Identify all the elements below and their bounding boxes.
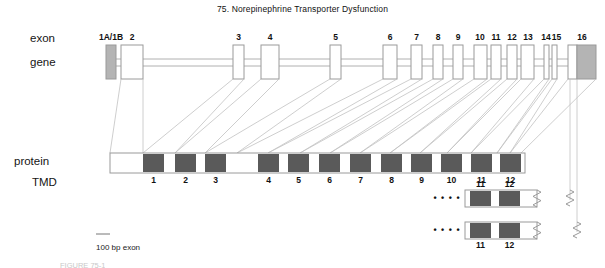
connector-exon-9-left xyxy=(330,79,453,153)
tmd-box-4 xyxy=(258,154,279,172)
figure-caption-cut: FIGURE 75-1 xyxy=(60,261,105,268)
exon-label-7: 7 xyxy=(411,32,422,42)
exon-box-16-coding xyxy=(577,45,596,79)
splice-variant-2-tmd-12 xyxy=(499,223,520,238)
tmd-label-10: 10 xyxy=(441,175,462,185)
tmd-box-6 xyxy=(319,154,340,172)
tmd-label-3: 3 xyxy=(205,175,226,185)
splice-variant-1-ellipsis: • • • • xyxy=(432,193,462,203)
tmd-box-1 xyxy=(143,154,164,172)
tmd-label-8: 8 xyxy=(381,175,402,185)
exon-box-5 xyxy=(330,45,341,79)
connector-exon-16-left xyxy=(510,79,568,153)
exon-box-4 xyxy=(261,45,279,79)
splice-variant-2-ellipsis: • • • • xyxy=(432,225,462,235)
exon-box-11 xyxy=(491,45,501,79)
exon-box-15 xyxy=(552,45,557,79)
connector-exon-9-right xyxy=(360,79,463,153)
exon-box-7 xyxy=(411,45,422,79)
exon-box-12 xyxy=(507,45,517,79)
tmd-box-8 xyxy=(381,154,402,172)
tmd-label-5: 5 xyxy=(288,175,309,185)
splice-variant-2-tmd-11 xyxy=(470,223,491,238)
connector-exon-8-right xyxy=(330,79,443,153)
connector-exon-2-left xyxy=(110,79,121,153)
tmd-box-2 xyxy=(175,154,196,172)
exon-label-12: 12 xyxy=(505,32,519,42)
exon-label-4: 4 xyxy=(261,32,279,42)
tmd-box-9 xyxy=(411,154,432,172)
tmd-label-7: 7 xyxy=(350,175,371,185)
exon-label-16: 16 xyxy=(568,32,596,42)
exon-box-8 xyxy=(433,45,443,79)
tmd-box-3 xyxy=(205,154,226,172)
exon-box-9 xyxy=(453,45,463,79)
exon-box-10 xyxy=(474,45,487,79)
exon-label-13: 13 xyxy=(521,32,535,42)
exon-label-10: 10 xyxy=(472,32,488,42)
exon-label-15: 15 xyxy=(550,32,563,42)
exon-label-2: 2 xyxy=(121,32,143,42)
splice-variant-1-tmd-11 xyxy=(470,191,491,206)
exon-box-2 xyxy=(121,45,143,79)
exon-label-9: 9 xyxy=(453,32,463,42)
gene-protein-structure-figure: 75. Norepinephrine Transporter Dysfuncti… xyxy=(0,0,605,268)
tmd-label-2: 2 xyxy=(175,175,196,185)
exon-box-13 xyxy=(521,45,534,79)
tmd-label-9: 9 xyxy=(411,175,432,185)
splice-variant-1-label-12: 12 xyxy=(499,179,520,189)
exon-box-6 xyxy=(383,45,397,79)
tmd-box-7 xyxy=(350,154,371,172)
exon-box-14 xyxy=(544,45,549,79)
connector-exon-13-left xyxy=(447,79,521,153)
exon-label-8: 8 xyxy=(433,32,443,42)
connector-exon-3-right xyxy=(175,79,244,153)
protein-bar xyxy=(110,153,525,173)
connector-exon-11-left xyxy=(390,79,491,153)
connector-exon-16-right xyxy=(521,79,596,153)
splice-variant-1-tmd-12 xyxy=(499,191,520,206)
exon-label-6: 6 xyxy=(383,32,397,42)
tmd-box-5 xyxy=(288,154,309,172)
splice-variant-1-label-11: 11 xyxy=(470,179,491,189)
splice-variant-2-label-12: 12 xyxy=(499,240,520,250)
connector-exon-12-left xyxy=(420,79,507,153)
tmd-label-6: 6 xyxy=(319,175,340,185)
tmd-box-12 xyxy=(500,154,521,172)
connector-exon-11-right xyxy=(420,79,501,153)
exon-label-3: 3 xyxy=(233,32,244,42)
splice-variant-2-label-11: 11 xyxy=(470,240,491,250)
exon-box-3 xyxy=(233,45,244,79)
exon-box-16-utr xyxy=(568,45,577,79)
scale-bar-label: 100 bp exon xyxy=(96,243,140,252)
exon-label-11: 11 xyxy=(489,32,503,42)
tmd-label-4: 4 xyxy=(258,175,279,185)
exon-label-5: 5 xyxy=(330,32,341,42)
exon-box-1A/1B xyxy=(106,45,116,79)
connector-exon-8-left xyxy=(300,79,433,153)
tmd-box-11 xyxy=(471,154,492,172)
tmd-box-10 xyxy=(441,154,462,172)
tmd-label-1: 1 xyxy=(143,175,164,185)
